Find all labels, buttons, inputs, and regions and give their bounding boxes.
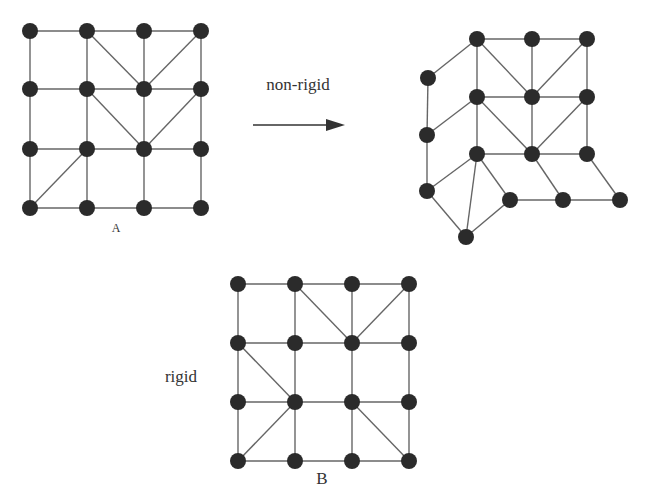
node [287,276,303,292]
node [287,335,303,351]
graph-a [22,23,209,216]
node [22,81,38,97]
edge [87,31,144,89]
node [502,192,518,208]
node [79,81,95,97]
node [419,183,435,199]
edge [144,31,201,89]
edge [532,154,563,200]
node [136,141,152,157]
node [79,200,95,216]
node [193,23,209,39]
node [344,394,360,410]
node [579,146,595,162]
node [230,335,246,351]
node [524,146,540,162]
edge [587,154,620,200]
node [230,276,246,292]
node [344,453,360,469]
node [287,453,303,469]
node [524,31,540,47]
edge [466,200,510,237]
edge [532,97,587,154]
node [469,146,485,162]
node [22,23,38,39]
grid-a-label: A [112,221,121,235]
edge [477,97,532,154]
edge [427,154,477,191]
edge [477,39,532,97]
node [401,335,417,351]
edge [87,89,144,149]
edge [427,78,428,135]
edge [427,97,477,135]
rigid-label: rigid [165,367,198,386]
edge [427,191,466,237]
node [419,127,435,143]
diagram-canvas: non-rigid rigid A B [0,0,645,499]
node [193,141,209,157]
node [287,394,303,410]
edge [352,402,409,461]
edge [466,154,477,237]
node [524,89,540,105]
arrow-head-icon [326,119,345,131]
edge [238,402,295,461]
node [469,89,485,105]
node [344,335,360,351]
arrow-label: non-rigid [266,75,330,94]
node [193,81,209,97]
edge [352,284,409,343]
node [401,276,417,292]
node [420,70,436,86]
node [230,453,246,469]
node [22,200,38,216]
edge [30,149,87,208]
node [136,23,152,39]
node [230,394,246,410]
node [579,31,595,47]
graph-b [230,276,417,469]
node [469,31,485,47]
edge [144,89,201,149]
arrow [253,119,345,131]
node [79,141,95,157]
edge [477,154,510,200]
edge [295,284,352,343]
node [612,192,628,208]
node [136,81,152,97]
graph-nonrigid [419,31,628,245]
node [458,229,474,245]
node [344,276,360,292]
edge [532,39,587,97]
node [193,200,209,216]
node [22,141,38,157]
edge [428,39,477,78]
node [555,192,571,208]
grid-b-label: B [316,469,327,488]
node [79,23,95,39]
node [579,89,595,105]
node [401,453,417,469]
node [401,394,417,410]
edge [238,343,295,402]
node [136,200,152,216]
